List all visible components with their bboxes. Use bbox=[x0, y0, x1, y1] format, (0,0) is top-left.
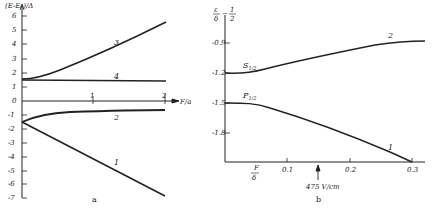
svg-text:3: 3 bbox=[12, 55, 17, 63]
b-x-ticks bbox=[287, 158, 412, 162]
svg-text:1: 1 bbox=[230, 6, 234, 14]
svg-text:2: 2 bbox=[11, 69, 17, 77]
svg-text:6: 6 bbox=[12, 12, 17, 20]
a-curve-4 bbox=[22, 80, 166, 81]
svg-text:-1.5: -1.5 bbox=[212, 99, 226, 107]
p-half-label: P1/2 bbox=[242, 91, 256, 101]
svg-text:-7: -7 bbox=[8, 194, 15, 202]
svg-text:δ: δ bbox=[214, 15, 218, 23]
a-caption: a bbox=[92, 195, 97, 204]
b-curve-1-label: 1 bbox=[388, 143, 393, 152]
a-curve-3 bbox=[22, 22, 166, 79]
a-ylabel: (E-E₀)/Δ bbox=[5, 2, 33, 10]
a-curve-2-label: 2 bbox=[113, 113, 119, 122]
svg-text:-2: -2 bbox=[8, 125, 15, 133]
svg-text:0: 0 bbox=[12, 97, 17, 105]
svg-text:-1: -1 bbox=[8, 111, 15, 119]
svg-text:0.2: 0.2 bbox=[345, 166, 357, 174]
b-curve-1 bbox=[225, 103, 412, 162]
svg-text:-0.9: -0.9 bbox=[212, 39, 226, 47]
arrow-up-icon bbox=[316, 165, 320, 171]
b-y-ticks bbox=[225, 43, 230, 133]
s-half-label: S1/2 bbox=[243, 61, 257, 71]
svg-text:2: 2 bbox=[229, 15, 235, 23]
svg-text:ε: ε bbox=[214, 6, 218, 14]
a-curve-2 bbox=[22, 110, 165, 122]
svg-text:-5: -5 bbox=[8, 167, 15, 175]
svg-text:2: 2 bbox=[161, 92, 167, 100]
svg-text:-3: -3 bbox=[8, 139, 15, 147]
b-caption: b bbox=[316, 195, 321, 204]
a-xlabel: F/a bbox=[179, 98, 191, 106]
panel-a-text: (E-E₀)/Δ 6 5 4 3 2 1 0 -1 -2 -3 -4 -5 -6… bbox=[5, 2, 191, 204]
b-annotation: 475 V/cm bbox=[305, 183, 340, 191]
svg-text:F: F bbox=[253, 164, 260, 172]
b-curve-2-label: 2 bbox=[387, 31, 393, 40]
panel-b-text: ε δ − 1 2 -0.9 -1.2 -1.5 -1.8 0.1 0.2 0.… bbox=[212, 6, 419, 204]
svg-text:−: − bbox=[222, 10, 228, 18]
svg-text:-4: -4 bbox=[8, 153, 15, 161]
svg-text:0.3: 0.3 bbox=[407, 166, 419, 174]
panel-a bbox=[20, 4, 179, 198]
a-curve-3-label: 3 bbox=[114, 38, 119, 47]
svg-text:δ: δ bbox=[252, 174, 256, 182]
a-curve-1-label: 1 bbox=[114, 158, 119, 167]
svg-text:-6: -6 bbox=[8, 180, 15, 188]
a-x-arrow-icon bbox=[172, 99, 179, 103]
svg-text:4: 4 bbox=[11, 40, 16, 48]
a-curve-1 bbox=[22, 122, 165, 196]
svg-text:5: 5 bbox=[12, 26, 17, 34]
svg-text:1: 1 bbox=[12, 83, 16, 91]
figure: (E-E₀)/Δ 6 5 4 3 2 1 0 -1 -2 -3 -4 -5 -6… bbox=[0, 0, 432, 208]
a-y-ticks bbox=[22, 16, 27, 198]
svg-text:1: 1 bbox=[90, 92, 94, 100]
svg-text:-1.2: -1.2 bbox=[212, 69, 226, 77]
svg-text:-1.8: -1.8 bbox=[212, 129, 226, 137]
svg-text:0.1: 0.1 bbox=[282, 166, 293, 174]
a-curve-4-label: 4 bbox=[113, 72, 119, 81]
